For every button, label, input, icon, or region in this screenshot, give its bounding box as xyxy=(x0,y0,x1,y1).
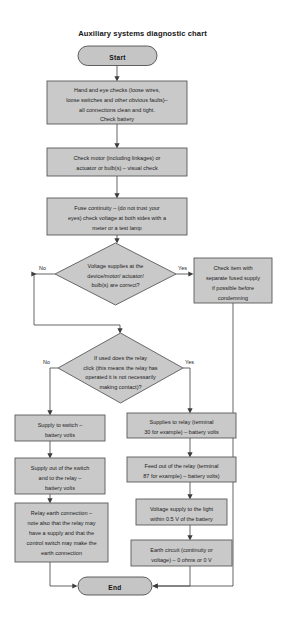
node-hand-eye-checks[interactable]: Hand and eye checks (loose wires, loose … xyxy=(47,81,187,124)
node-text-line: If used does the relay xyxy=(94,355,147,361)
page-title: Auxiliary systems diagnostic chart xyxy=(78,29,207,38)
node-text-line: device/motor/ actuator/ xyxy=(87,273,144,279)
node-text-line: operated it is not necessarily xyxy=(85,374,156,380)
node-text-line: Hand and eye checks (loose wires, xyxy=(74,87,160,93)
node-text-line: bulb(s) are correct? xyxy=(91,282,139,288)
branch-label-yes-relay: Yes xyxy=(185,359,194,365)
node-text-line: battery volts xyxy=(45,485,75,491)
node-text-line: making contact)? xyxy=(99,384,141,390)
node-voltage-supply-to-light[interactable]: Voltage supply to the light within 0.5 V… xyxy=(136,499,227,525)
node-text-line: Earth circuit (continuity or xyxy=(150,547,213,553)
node-text-line: Voltage supply to the light xyxy=(150,506,214,512)
flowchart-container: Auxiliary systems diagnostic chart xyxy=(0,0,285,627)
node-start[interactable]: Start xyxy=(78,46,157,66)
node-text-line: Supply out of the switch xyxy=(31,465,90,471)
node-fuse-continuity[interactable]: Fuse continuity – (do not trust your eye… xyxy=(47,198,187,235)
node-supply-to-switch[interactable]: Supply to switch – battery volts xyxy=(15,415,105,441)
node-text-line: within 0.5 V of the battery xyxy=(149,516,213,522)
node-check-motor[interactable]: Check motor (including linkages) or actu… xyxy=(47,148,187,176)
node-end[interactable]: End xyxy=(78,577,152,595)
node-text-line: Fuse continuity – (do not trust your xyxy=(74,205,160,211)
node-text-line: 87 for example) – battery volts) xyxy=(143,473,220,479)
arrow-head-icon xyxy=(117,328,122,333)
node-text-line: loose switches and other obvious faults)… xyxy=(66,97,168,103)
node-feed-out-of-relay[interactable]: Feed out of the relay (terminal 87 for e… xyxy=(127,457,236,482)
arrow-head-icon xyxy=(188,271,193,276)
node-text-line: control switch may make the xyxy=(27,540,97,546)
node-text-line: Relay earth connection – xyxy=(31,510,93,516)
node-voltage-decision[interactable]: Voltage supplies at the device/motor/ ac… xyxy=(55,243,176,305)
node-earth-circuit[interactable]: Earth circuit (continuity or voltage) – … xyxy=(131,540,232,566)
node-text-line: Supplies to relay (terminal xyxy=(149,419,213,425)
edge-relay-yes-to-supplies-relay xyxy=(183,368,190,411)
node-text-line: have a supply and that the xyxy=(29,530,94,536)
arrow-head-icon xyxy=(72,583,77,588)
node-text-line: and to the relay – xyxy=(39,475,83,481)
node-text-line: Check item with xyxy=(213,265,252,271)
node-text-line: earth connection xyxy=(41,550,82,556)
node-text-line: all connections clean and tight. xyxy=(79,107,155,113)
node-text-line: click (this means the relay has xyxy=(83,365,158,371)
node-start-label: Start xyxy=(109,54,126,61)
node-text-line: 30 for example) – battery volts xyxy=(144,429,219,435)
node-text-line: Check battery xyxy=(100,116,134,122)
node-text-line: Feed out of the relay (terminal xyxy=(145,463,219,469)
node-text-line: separate fused supply xyxy=(206,275,260,281)
node-text-line: actuator or bulb(s) – visual check xyxy=(76,165,158,171)
node-text-line: Voltage supplies at the xyxy=(88,263,144,269)
node-supplies-to-relay[interactable]: Supplies to relay (terminal 30 for examp… xyxy=(127,413,236,438)
edge-earth-circuit-to-end xyxy=(155,566,190,586)
node-text-line: eyes) check voltage at both sides with a xyxy=(68,215,167,221)
check-motor-box xyxy=(47,148,187,176)
node-text-line: voltage) – 0 ohms or 0 V xyxy=(151,557,212,563)
node-text-line: meter or a test lamp xyxy=(92,225,141,231)
node-check-item[interactable]: Check item with separate fused supply if… xyxy=(194,258,272,303)
node-text-line: if possible before xyxy=(212,285,254,291)
edge-relay-earth-to-end xyxy=(50,562,75,586)
node-text-line: note also that the relay may xyxy=(27,520,95,526)
node-text-line: condemning xyxy=(218,295,248,301)
edge-relay-no-to-supply-switch xyxy=(50,368,58,413)
node-relay-earth-connection[interactable]: Relay earth connection – note also that … xyxy=(15,503,108,562)
node-supply-out-of-switch[interactable]: Supply out of the switch and to the rela… xyxy=(15,458,105,494)
branch-label-no-relay: No xyxy=(43,359,50,365)
arrow-head-icon xyxy=(153,583,158,588)
node-text-line: Supply to switch – xyxy=(38,422,84,428)
node-relay-decision[interactable]: If used does the relay click (this means… xyxy=(58,333,183,403)
node-text-line: Check motor (including linkages) or xyxy=(74,155,161,161)
branch-label-yes-voltage: Yes xyxy=(178,265,187,271)
branch-label-no-voltage: No xyxy=(39,265,46,271)
node-text-line: battery volts xyxy=(45,432,75,438)
node-end-label: End xyxy=(108,584,121,591)
